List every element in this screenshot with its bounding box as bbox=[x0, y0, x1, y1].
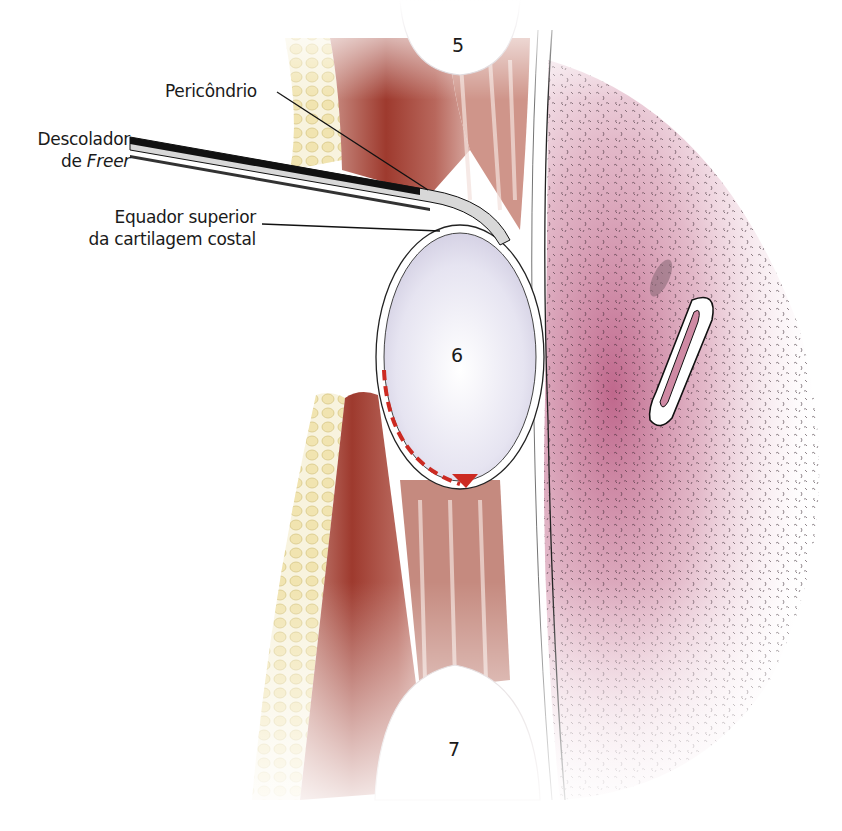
illustration-canvas bbox=[0, 0, 842, 831]
label-freer-line1: Descolador bbox=[18, 128, 130, 150]
label-equator-line1: Equador superior bbox=[60, 206, 256, 228]
label-perichondrium: Pericôndrio bbox=[165, 80, 257, 102]
label-freer-prefix: de bbox=[61, 151, 87, 171]
rib-number-5: 5 bbox=[452, 34, 464, 56]
label-freer-italic: Freer bbox=[87, 151, 130, 171]
label-freer-line2: de Freer bbox=[18, 150, 130, 172]
label-equator: Equador superior da cartilagem costal bbox=[60, 206, 256, 250]
label-freer-elevator: Descolador de Freer bbox=[18, 128, 130, 172]
rib-number-6: 6 bbox=[451, 344, 463, 366]
surgical-illustration: Pericôndrio Descolador de Freer Equador … bbox=[0, 0, 842, 831]
rib-number-7: 7 bbox=[448, 738, 460, 760]
label-equator-line2: da cartilagem costal bbox=[60, 228, 256, 250]
